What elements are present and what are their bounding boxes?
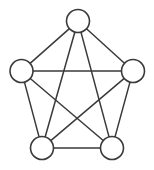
graph-edge-top-to-bottom-right bbox=[81, 32, 109, 137]
graph-edge-right-to-bottom-right bbox=[115, 82, 130, 137]
graph-node-circle-right bbox=[122, 60, 145, 83]
graph-diagram bbox=[0, 0, 154, 170]
edge-layer bbox=[24, 29, 130, 148]
graph-edge-left-to-bottom-right bbox=[30, 78, 103, 140]
graph-node-right bbox=[122, 60, 145, 83]
graph-node-bottom-left bbox=[31, 137, 54, 160]
graph-edge-top-to-left bbox=[30, 29, 69, 64]
node-layer bbox=[10, 10, 145, 160]
graph-node-circle-bottom-left bbox=[31, 137, 54, 160]
graph-node-top bbox=[67, 10, 90, 33]
graph-canvas bbox=[0, 0, 154, 170]
graph-edge-left-to-bottom-left bbox=[24, 82, 39, 137]
graph-node-left bbox=[10, 60, 33, 83]
graph-node-bottom-right bbox=[101, 137, 124, 160]
graph-node-circle-left bbox=[10, 60, 33, 83]
graph-edge-top-to-bottom-left bbox=[45, 32, 75, 137]
graph-edge-top-to-right bbox=[87, 29, 125, 64]
graph-edge-right-to-bottom-left bbox=[51, 78, 124, 140]
graph-node-circle-top bbox=[67, 10, 90, 33]
graph-node-circle-bottom-right bbox=[101, 137, 124, 160]
